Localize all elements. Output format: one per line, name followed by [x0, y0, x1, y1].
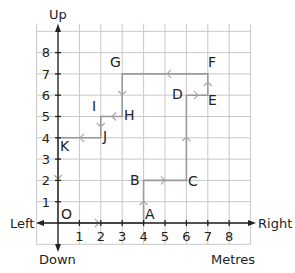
arrow-down-icon	[55, 244, 61, 252]
x-tick-label: 8	[225, 229, 233, 244]
x-tick-labels: 1 2 3 4 5 6 7 8	[75, 229, 233, 244]
point-label-g: G	[110, 54, 121, 70]
point-label-j: J	[102, 128, 107, 144]
point-label-o: O	[61, 206, 72, 222]
point-label-i: I	[92, 98, 96, 114]
left-label: Left	[10, 216, 34, 231]
y-tick-label: 8	[42, 45, 50, 60]
point-label-h: H	[124, 107, 135, 123]
route-path	[58, 74, 208, 223]
y-tick-label: 5	[42, 109, 50, 124]
point-label-e: E	[208, 92, 217, 108]
right-label: Right	[258, 216, 292, 231]
point-label-b: B	[130, 172, 140, 188]
down-label: Down	[39, 252, 76, 267]
up-label: Up	[49, 7, 67, 22]
y-tick-label: 1	[42, 195, 50, 210]
x-tick-label: 7	[204, 229, 212, 244]
x-tick-label: 2	[97, 229, 105, 244]
units-label: Metres	[211, 252, 255, 267]
y-tick-label: 3	[42, 152, 50, 167]
point-label-f: F	[208, 54, 216, 70]
arrow-left-icon	[36, 220, 44, 226]
point-label-d: D	[172, 86, 183, 102]
y-tick-labels: 1 2 3 4 5 6 7 8	[42, 45, 50, 209]
x-tick-label: 5	[161, 229, 169, 244]
point-label-c: C	[188, 173, 198, 189]
x-tick-label: 3	[118, 229, 126, 244]
arrow-right-icon	[248, 220, 256, 226]
x-tick-label: 6	[182, 229, 190, 244]
y-tick-label: 2	[42, 173, 50, 188]
arrow-up-icon	[55, 24, 61, 32]
x-tick-label: 4	[139, 229, 147, 244]
y-tick-label: 4	[42, 131, 50, 146]
y-tick-label: 7	[42, 67, 50, 82]
route	[54, 70, 212, 227]
y-tick-label: 6	[42, 88, 50, 103]
point-label-k: K	[60, 138, 70, 154]
route-diagram: 1 2 3 4 5 6 7 8 1 2 3 4 5 6 7 8 Up Down …	[0, 0, 295, 273]
point-label-a: A	[145, 206, 155, 222]
x-tick-label: 1	[75, 229, 83, 244]
